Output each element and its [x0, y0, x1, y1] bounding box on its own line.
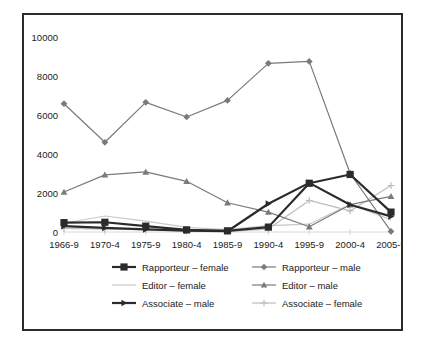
data-point-marker — [121, 300, 127, 306]
line-chart: 02000400060008000100001966-91970-41975-9… — [24, 15, 401, 329]
y-axis-tick-label: 4000 — [37, 149, 58, 160]
data-point-marker — [306, 58, 313, 65]
series-editor-male — [61, 169, 395, 230]
data-point-marker — [388, 182, 395, 189]
legend-item-label: Rapporteur – male — [282, 262, 361, 273]
y-axis-tick-label: 2000 — [37, 188, 58, 199]
chart-frame: 02000400060008000100001966-91970-41975-9… — [22, 13, 403, 331]
x-axis-tick-label: 1975-9 — [131, 239, 161, 250]
data-point-marker — [60, 219, 67, 226]
series-line — [64, 204, 391, 229]
data-point-marker — [347, 208, 354, 215]
x-axis-tick-label: 1966-9 — [49, 239, 79, 250]
data-point-marker — [265, 224, 272, 231]
data-point-marker — [347, 171, 354, 178]
data-point-marker — [388, 193, 395, 199]
chart-figure: 02000400060008000100001966-91970-41975-9… — [0, 0, 425, 348]
data-point-marker — [183, 114, 190, 121]
legend-item[interactable]: Rapporteur – female — [112, 262, 229, 273]
legend-item[interactable]: Editor – male — [252, 280, 338, 291]
legend-item-label: Editor – male — [282, 280, 338, 291]
y-axis-tick-label: 10000 — [32, 32, 58, 43]
x-axis-tick-label: 1990-4 — [254, 239, 284, 250]
legend-item-label: Associate – male — [142, 298, 214, 309]
x-axis-tick-label: 1995-9 — [294, 239, 324, 250]
legend-item[interactable]: Editor – female — [112, 280, 206, 291]
data-point-marker — [306, 180, 313, 187]
data-point-marker — [101, 219, 108, 226]
data-point-marker — [142, 223, 149, 230]
legend-item-label: Editor – female — [142, 280, 206, 291]
x-axis-tick-label: 1985-9 — [213, 239, 243, 250]
x-axis-tick-label: 2000-4 — [335, 239, 365, 250]
data-point-marker — [61, 189, 68, 195]
legend-item[interactable]: Associate – female — [252, 298, 362, 309]
legend-item-label: Associate – female — [282, 298, 362, 309]
x-axis-tick-label: 1980-4 — [172, 239, 202, 250]
data-point-marker — [224, 227, 231, 234]
data-point-marker — [261, 264, 267, 270]
series-line — [64, 61, 391, 231]
data-point-marker — [183, 226, 190, 233]
data-point-marker — [387, 209, 394, 216]
legend-item-label: Rapporteur – female — [142, 262, 229, 273]
data-point-marker — [261, 300, 267, 306]
y-axis-tick-label: 8000 — [37, 71, 58, 82]
x-axis-tick-label: 1970-4 — [90, 239, 120, 250]
legend-item[interactable]: Rapporteur – male — [252, 262, 361, 273]
x-axis-tick-label: 2005-9 — [376, 239, 401, 250]
y-axis-tick-label: 6000 — [37, 110, 58, 121]
series-editor-female — [64, 204, 391, 229]
legend-item[interactable]: Associate – male — [112, 298, 214, 309]
data-point-marker — [224, 199, 231, 205]
chart-legend: Rapporteur – femaleRapporteur – maleEdit… — [112, 262, 362, 309]
y-axis-tick-label: 0 — [53, 227, 58, 238]
data-point-marker — [120, 263, 127, 270]
